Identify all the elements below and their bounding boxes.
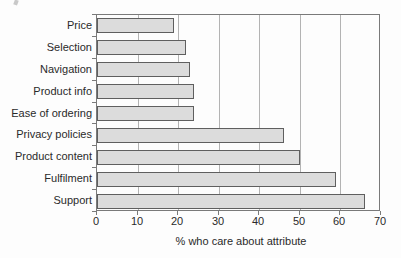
- x-tick-label: 0: [81, 215, 111, 227]
- category-label: Product content: [2, 150, 92, 162]
- category-label: Fulfilment: [2, 172, 92, 184]
- bar-selection: [97, 40, 186, 55]
- bar-product-content: [97, 150, 300, 165]
- x-tick-label: 70: [365, 215, 395, 227]
- y-axis-tick: [92, 102, 96, 103]
- category-label: Product info: [2, 85, 92, 97]
- plot-area: [96, 14, 380, 211]
- y-axis-tick: [92, 123, 96, 124]
- category-label: Selection: [2, 41, 92, 53]
- gridline-x-60: [340, 15, 341, 210]
- bar-product-info: [97, 84, 194, 99]
- x-tick-label: 60: [324, 215, 354, 227]
- x-tick-label: 10: [122, 215, 152, 227]
- y-axis-tick: [92, 36, 96, 37]
- bar-chart: % who care about attribute PriceSelectio…: [0, 0, 401, 258]
- category-label: Support: [2, 194, 92, 206]
- bar-navigation: [97, 62, 190, 77]
- x-tick-label: 40: [243, 215, 273, 227]
- y-axis-tick: [92, 189, 96, 190]
- category-label: Privacy policies: [2, 128, 92, 140]
- bar-fulfilment: [97, 172, 336, 187]
- bar-privacy-policies: [97, 128, 284, 143]
- y-axis-tick: [92, 167, 96, 168]
- category-label: Ease of ordering: [2, 107, 92, 119]
- y-axis-tick: [92, 145, 96, 146]
- bar-ease-of-ordering: [97, 106, 194, 121]
- x-tick-label: 50: [284, 215, 314, 227]
- y-axis-tick: [92, 58, 96, 59]
- scan-artifact: [13, 0, 18, 6]
- category-label: Navigation: [2, 63, 92, 75]
- y-axis-tick: [92, 14, 96, 15]
- x-axis-title: % who care about attribute: [96, 235, 386, 247]
- bar-support: [97, 194, 365, 209]
- y-axis-tick: [92, 80, 96, 81]
- category-label: Price: [2, 19, 92, 31]
- x-tick-label: 20: [162, 215, 192, 227]
- bar-price: [97, 18, 174, 33]
- x-tick-label: 30: [203, 215, 233, 227]
